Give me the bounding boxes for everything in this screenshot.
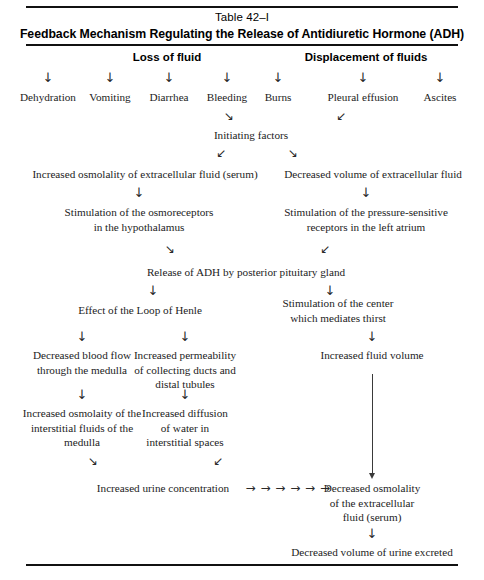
node-decreased-blood-flow: Decreased blood flow through the medulla [33,348,131,377]
arrow-down-diarrhea: ↓ [164,72,175,84]
arrow-down-pleural-effusion: ↓ [358,72,369,84]
table-title-block: Table 42–I Feedback Mechanism Regulating… [0,10,484,42]
arrow-diag-osmoreceptors-to-adh: ↘ [165,243,175,255]
arrow-down-burns: ↓ [273,72,284,84]
arrow-down-to-urine-volume: ↓ [367,528,378,540]
osmoreceptors-line-1: Stimulation of the osmoreceptors [65,205,214,220]
long-arrow-head-fluid-volume [369,473,375,479]
table-figure: Table 42–I Feedback Mechanism Regulating… [0,0,484,580]
node-increased-urine-concentration: Increased urine concentration [97,481,229,496]
header-displacement-of-fluids: Displacement of fluids [305,51,428,63]
arrow-diag-pressure-receptors-to-adh: ↙ [320,243,330,255]
diffusion-line-3: interstitial spaces [142,435,228,450]
long-arrow-shaft-fluid-volume [372,374,373,474]
decreased-osmolality-line-2: of the extracellular [324,496,421,511]
arrow-down-bleeding: ↓ [222,72,233,84]
node-release-adh: Release of ADH by posterior pituitary gl… [147,265,345,280]
decreased-osmolality-line-1: Decreased osmolality [324,481,421,496]
arrow-down-to-blood-flow: ↓ [77,331,88,343]
pressure-receptors-line-2: receptors in the left atrium [284,220,448,235]
header-rule [26,44,458,46]
table-title: Feedback Mechanism Regulating the Releas… [0,26,484,42]
arrow-down-dehydration: ↓ [43,72,54,84]
thirst-center-line-1: Stimulation of the center [283,296,394,311]
top-rule [26,6,458,8]
node-loop-of-henle: Effect of the Loop of Henle [78,303,202,318]
arrow-diag-initiating-to-osmolality: ↙ [216,147,226,159]
arrow-down-to-pressure-receptors: ↓ [361,187,372,199]
node-increased-osmolality-ecf: Increased osmolality of extracellular fl… [32,167,257,182]
node-pressure-receptors: Stimulation of the pressure-sensitive re… [284,205,448,234]
permeability-line-1: Increased permeability [134,348,236,363]
arrow-diag-osmolaity-to-urine: ↘ [88,455,98,467]
cause-dehydration: Dehydration [20,90,76,105]
cause-burns: Burns [265,90,292,105]
node-osmoreceptors: Stimulation of the osmoreceptors in the … [65,205,214,234]
osmoreceptors-line-2: in the hypothalamus [65,220,214,235]
arrow-down-to-loop-of-henle: ↓ [148,285,159,297]
arrow-down-to-diffusion: ↓ [180,389,191,401]
node-thirst-center: Stimulation of the center which mediates… [283,296,394,325]
permeability-line-2: of collecting ducts and [134,363,236,378]
arrow-diag-initiating-to-volume: ↘ [288,147,298,159]
diffusion-line-1: Increased diffusion [142,406,228,421]
arrow-down-vomiting: ↓ [105,72,116,84]
pressure-receptors-line-1: Stimulation of the pressure-sensitive [284,205,448,220]
cause-diarrhea: Diarrhea [149,90,188,105]
cause-vomiting: Vomiting [89,90,130,105]
table-number: Table 42–I [0,10,484,25]
arrow-diag-displacement-to-initiating: ↙ [336,110,346,122]
node-initiating-factors: Initiating factors [214,128,288,143]
arrow-chain-right: → → → → → → [246,482,331,494]
arrow-diag-loss-to-initiating: ↘ [224,110,234,122]
arrow-down-to-permeability: ↓ [180,331,191,343]
node-increased-permeability: Increased permeability of collecting duc… [134,348,236,392]
node-increased-fluid-volume: Increased fluid volume [320,348,423,363]
cause-ascites: Ascites [424,90,457,105]
bottom-rule [26,564,458,566]
arrow-down-ascites: ↓ [435,72,446,84]
cause-bleeding: Bleeding [207,90,247,105]
blood-flow-line-1: Decreased blood flow [33,348,131,363]
thirst-center-line-2: which mediates thirst [283,311,394,326]
decreased-osmolality-line-3: fluid (serum) [324,510,421,525]
arrow-diag-diffusion-to-urine: ↙ [213,455,223,467]
node-increased-diffusion: Increased diffusion of water in intersti… [142,406,228,450]
diffusion-line-2: of water in [142,421,228,436]
osmolaity-line-1: Increased osmolaity of the [23,406,141,421]
node-decreased-osmolality-ecf: Decreased osmolality of the extracellula… [324,481,421,525]
blood-flow-line-2: through the medulla [33,363,131,378]
arrow-down-to-osmoreceptors: ↓ [134,187,145,199]
osmolaity-line-3: medulla [23,435,141,450]
node-decreased-volume-ecf: Decreased volume of extracellular fluid [284,167,462,182]
node-decreased-urine-volume: Decreased volume of urine excreted [291,545,453,560]
cause-pleural-effusion: Pleural effusion [328,90,399,105]
node-increased-osmolaity-interstitial: Increased osmolaity of the interstitial … [23,406,141,450]
arrow-down-to-osmolaity: ↓ [77,389,88,401]
header-loss-of-fluid: Loss of fluid [133,51,201,63]
arrow-down-to-fluid-volume: ↓ [367,331,378,343]
osmolaity-line-2: interstitial fluids of the [23,421,141,436]
